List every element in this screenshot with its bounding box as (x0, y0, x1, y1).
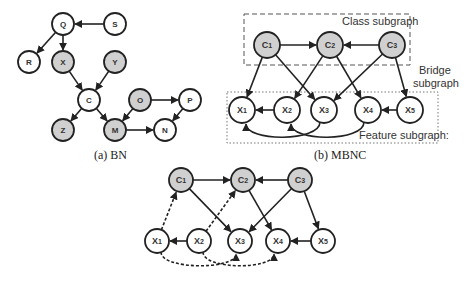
node-P: P (179, 89, 201, 111)
svg-text:C: C (86, 96, 92, 105)
edge-P-N (173, 108, 183, 120)
edge-C3-X3 (249, 189, 291, 232)
dashed-curved-edge-X2-X4 (203, 252, 274, 266)
node-X5: X5 (397, 97, 423, 123)
graph-diagrams: Class subgraph Bridge subgraph Feature s… (0, 0, 469, 281)
edge-C3-X5 (395, 58, 406, 97)
edge-C1-X1 (247, 57, 262, 97)
svg-text:C3: C3 (295, 175, 306, 185)
svg-text:S: S (112, 20, 118, 29)
edge-Y-C (96, 71, 109, 90)
node-Z: Z (52, 119, 74, 141)
node-X2: X2 (187, 229, 211, 253)
edge-O-M (123, 108, 133, 120)
bn-graph: QSRXYCOPZMN (18, 13, 201, 141)
figure-canvas: Class subgraph Bridge subgraph Feature s… (0, 0, 469, 281)
node-X4: X4 (266, 229, 290, 253)
svg-text:M: M (112, 126, 119, 135)
svg-text:O: O (137, 96, 143, 105)
node-C3: C3 (379, 32, 405, 58)
bridge-subgraph-label-2: subgraph (413, 77, 459, 89)
svg-text:C1: C1 (176, 175, 187, 185)
svg-text:X3: X3 (319, 105, 329, 115)
svg-text:C1: C1 (262, 40, 273, 50)
node-C2: C2 (317, 32, 343, 58)
node-Q: Q (52, 13, 74, 35)
edge-C2-X4 (249, 190, 272, 229)
node-X2: X2 (274, 97, 300, 123)
node-X1: X1 (229, 97, 255, 123)
node-O: O (129, 89, 151, 111)
node-C2: C2 (231, 168, 255, 192)
feature-subgraph-label: Feature subgraph: (359, 129, 449, 141)
node-C1: C1 (254, 32, 280, 58)
svg-text:X2: X2 (282, 105, 292, 115)
edge-C3-X5 (304, 191, 318, 229)
node-X: X (52, 51, 74, 73)
svg-text:X: X (60, 58, 66, 67)
svg-text:X1: X1 (237, 105, 247, 115)
mbnc-graph: C1C2C3X1X2X3X4X5 (229, 32, 423, 137)
bottom-graph: C1C2C3X1X2X3X4X5 (145, 168, 335, 266)
node-N: N (154, 119, 176, 141)
class-subgraph-label: Class subgraph (342, 15, 418, 27)
svg-text:X1: X1 (152, 236, 162, 246)
node-X5: X5 (311, 229, 335, 253)
node-X1: X1 (145, 229, 169, 253)
svg-text:X3: X3 (235, 236, 245, 246)
node-R: R (18, 51, 40, 73)
edge-C-M (96, 108, 107, 121)
svg-text:P: P (187, 96, 193, 105)
svg-text:C3: C3 (387, 40, 398, 50)
svg-text:X4: X4 (363, 105, 373, 115)
node-C: C (78, 89, 100, 111)
node-S: S (104, 13, 126, 35)
node-Y: Y (104, 51, 126, 73)
svg-text:X5: X5 (318, 236, 328, 246)
svg-text:Y: Y (112, 58, 118, 67)
edge-X-C (69, 71, 82, 90)
svg-text:Z: Z (61, 126, 66, 135)
node-M: M (104, 119, 126, 141)
svg-text:C2: C2 (325, 40, 336, 50)
node-X3: X3 (311, 97, 337, 123)
edge-Q-R (37, 32, 56, 53)
dashed-edge-X1-C1 (161, 192, 176, 230)
svg-text:R: R (26, 58, 32, 67)
node-C1: C1 (169, 168, 193, 192)
svg-text:X5: X5 (405, 105, 415, 115)
svg-text:N: N (162, 126, 168, 135)
svg-text:Q: Q (60, 20, 66, 29)
bridge-subgraph-label-1: Bridge (419, 64, 451, 76)
svg-text:X2: X2 (194, 236, 204, 246)
svg-text:X4: X4 (273, 236, 283, 246)
edge-C-Z (71, 108, 82, 121)
mbnc-caption: (b) MBNC (314, 148, 366, 163)
node-X4: X4 (355, 97, 381, 123)
svg-text:C2: C2 (238, 175, 249, 185)
bn-caption: (a) BN (94, 148, 127, 163)
node-C3: C3 (288, 168, 312, 192)
node-X3: X3 (228, 229, 252, 253)
dashed-curved-edge-X1-X3 (161, 252, 236, 266)
